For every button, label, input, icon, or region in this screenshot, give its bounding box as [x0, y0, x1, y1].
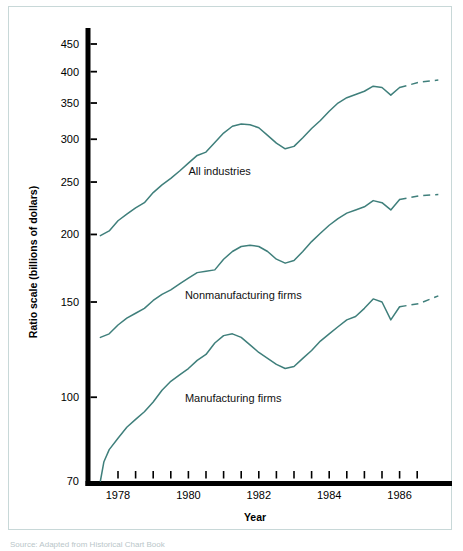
line-chart-plot: 4504003503002502001501007019781980198219… — [0, 0, 463, 551]
x-axis-line — [86, 481, 453, 486]
x-axis-tick-label: 1980 — [176, 489, 200, 501]
y-axis-line — [86, 28, 91, 486]
y-axis-tick-label: 70 — [67, 475, 79, 487]
series-forecast-line — [400, 195, 439, 200]
y-axis-tick-label: 350 — [61, 97, 79, 109]
series-line — [100, 299, 399, 481]
y-axis-tick-label: 100 — [61, 391, 79, 403]
x-axis-tick-label: 1982 — [247, 489, 271, 501]
series-forecast-line — [400, 80, 439, 87]
y-axis-tick-label: 400 — [61, 66, 79, 78]
y-axis-tick-label: 250 — [61, 176, 79, 188]
x-axis-tick-label: 1984 — [317, 489, 341, 501]
x-axis-title: Year — [244, 511, 266, 523]
series-annotation-label: Manufacturing firms — [185, 392, 282, 404]
chart-figure: 4504003503002502001501007019781980198219… — [0, 0, 463, 551]
source-note: Source: Adapted from Historical Chart Bo… — [10, 540, 450, 550]
y-axis-tick-label: 150 — [61, 296, 79, 308]
series-forecast-line — [400, 296, 439, 307]
y-axis-tick-label: 450 — [61, 38, 79, 50]
series-annotation-label: All industries — [188, 165, 251, 177]
series-line — [100, 86, 399, 235]
series-annotation-label: Nonmanufacturing firms — [185, 289, 302, 301]
y-axis-title: Ratio scale (billions of dollars) — [27, 186, 39, 338]
y-axis-tick-label: 300 — [61, 133, 79, 145]
x-axis-tick-label: 1986 — [387, 489, 411, 501]
x-axis-tick-label: 1978 — [106, 489, 130, 501]
y-axis-tick-label: 200 — [61, 228, 79, 240]
